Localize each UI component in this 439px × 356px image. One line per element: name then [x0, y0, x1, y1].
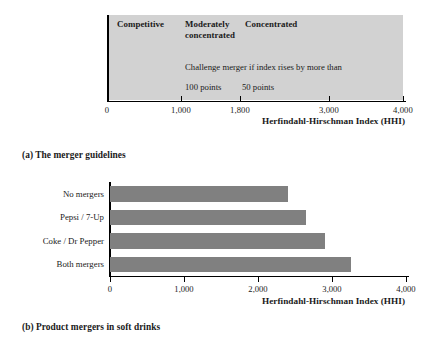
- panel-b-soft-drink-mergers: 0 1,000 2,000 3,000 4,000 Herfindahl-Hir…: [0, 172, 439, 356]
- panel-b-ticklabel-2000: 2,000: [248, 284, 267, 294]
- panel-b-tick-0: [110, 277, 111, 282]
- zone-label-moderately-concentrated-second-line: concentrated: [185, 30, 235, 41]
- bar: [110, 186, 288, 202]
- panel-b-ticklabel-0: 0: [108, 284, 112, 294]
- zone-label-moderately: Moderately: [185, 19, 229, 30]
- panel-a-caption: (a) The merger guidelines: [22, 150, 126, 160]
- panel-a-merger-guidelines: Competitive Moderately concentrated Conc…: [0, 0, 439, 172]
- panel-a-ticklabel-4000: 4,000: [393, 105, 413, 115]
- bar: [110, 257, 351, 273]
- figure-page: { "figure": { "panel_a": { "caption": "(…: [0, 0, 439, 356]
- bar: [110, 210, 306, 226]
- bar-plot-area: [110, 182, 406, 275]
- zone-label-concentrated: Concentrated: [245, 19, 297, 30]
- panel-a-ticklabel-3000: 3,000: [319, 105, 339, 115]
- panel-a-ticklabel-1000: 1,000: [171, 105, 191, 115]
- threshold-100-points: 100 points: [185, 82, 221, 93]
- panel-a-tick-0: [107, 96, 108, 102]
- panel-b-ticklabel-4000: 4,000: [396, 284, 415, 294]
- panel-b-tick-1000: [184, 277, 185, 282]
- panel-b-tick-4000: [406, 277, 407, 282]
- challenge-merger-note: Challenge merger if index rises by more …: [185, 62, 342, 73]
- bar-category-label: Coke / Dr Pepper: [43, 236, 104, 246]
- threshold-50-points: 50 points: [242, 82, 274, 93]
- panel-a-x-axis-line: [107, 101, 406, 102]
- panel-a-tick-4000: [403, 96, 404, 102]
- panel-a-tick-3000: [329, 96, 330, 102]
- bar-category-label: Pepsi / 7-Up: [60, 212, 104, 222]
- panel-b-tick-3000: [332, 277, 333, 282]
- zone-label-competitive: Competitive: [117, 19, 164, 30]
- panel-b-ticklabel-3000: 3,000: [322, 284, 341, 294]
- panel-b-caption: (b) Product mergers in soft drinks: [22, 322, 160, 332]
- panel-b-ticklabel-1000: 1,000: [174, 284, 193, 294]
- panel-a-tick-1000: [181, 96, 182, 102]
- panel-a-tick-1800: [240, 96, 241, 102]
- panel-a-ticklabel-0: 0: [105, 105, 109, 115]
- bar-category-label: No mergers: [63, 189, 104, 199]
- panel-a-ticklabel-1800: 1,800: [230, 105, 250, 115]
- bar: [110, 233, 325, 249]
- panel-a-axis-title: Herfindahl-Hirschman Index (HHI): [262, 116, 405, 126]
- panel-b-axis-title: Herfindahl-Hirschman Index (HHI): [262, 296, 405, 306]
- panel-b-tick-2000: [258, 277, 259, 282]
- panel-a-y-axis-line: [107, 15, 109, 102]
- bar-category-label: Both mergers: [57, 259, 104, 269]
